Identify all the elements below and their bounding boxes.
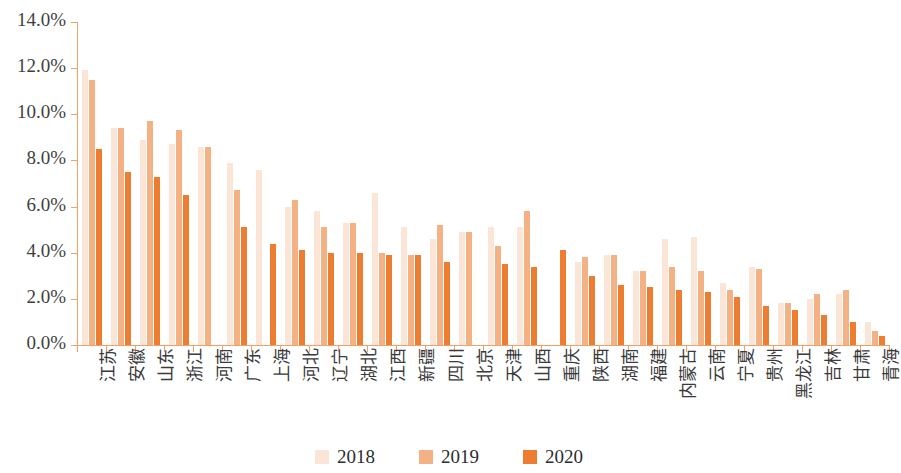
bar xyxy=(169,144,175,345)
bar xyxy=(82,70,88,345)
bar-group xyxy=(691,22,711,345)
x-axis-tick-label: 黑龙江 xyxy=(796,348,813,399)
bar xyxy=(241,227,247,345)
bar xyxy=(698,271,704,345)
bar xyxy=(749,267,755,345)
y-axis-tick-label: 12.0% xyxy=(17,55,66,77)
bar xyxy=(111,128,117,345)
bar xyxy=(154,177,160,345)
x-axis-tick-label: 广东 xyxy=(245,348,262,382)
x-axis-tick-label: 山西 xyxy=(535,348,552,382)
bar xyxy=(589,276,595,345)
bar-group xyxy=(662,22,682,345)
x-axis-tick-label: 新疆 xyxy=(419,348,436,382)
bar xyxy=(270,244,276,346)
bar xyxy=(372,193,378,345)
y-axis-tick-label: 14.0% xyxy=(17,9,66,31)
x-axis-tick-label: 四川 xyxy=(448,348,465,382)
bar-group xyxy=(256,22,276,345)
bars-layer xyxy=(77,22,889,345)
legend-item: 2018 xyxy=(315,446,375,468)
x-axis-tick-label: 宁夏 xyxy=(738,348,755,382)
bar xyxy=(604,255,610,345)
bar xyxy=(778,303,784,345)
bar xyxy=(756,269,762,345)
x-axis-tick-label: 辽宁 xyxy=(332,348,349,382)
legend-swatch xyxy=(523,450,537,464)
bar-group xyxy=(488,22,508,345)
bar xyxy=(415,255,421,345)
bar-group xyxy=(372,22,392,345)
bar-group xyxy=(285,22,305,345)
bar xyxy=(633,271,639,345)
bar-group xyxy=(778,22,798,345)
bar-group xyxy=(401,22,421,345)
bar-group xyxy=(575,22,595,345)
bar xyxy=(647,287,653,345)
x-axis-tick-label: 陕西 xyxy=(593,348,610,382)
x-axis-tick-label: 吉林 xyxy=(825,348,842,382)
bar xyxy=(531,267,537,345)
bar-group xyxy=(343,22,363,345)
bar xyxy=(669,267,675,345)
bar-group xyxy=(633,22,653,345)
legend-item: 2020 xyxy=(523,446,583,468)
x-axis-tick-label: 北京 xyxy=(477,348,494,382)
bar xyxy=(140,140,146,345)
bar xyxy=(734,297,740,345)
bar xyxy=(292,200,298,345)
bar xyxy=(582,257,588,345)
bar-group xyxy=(140,22,160,345)
bar xyxy=(328,253,334,345)
bar xyxy=(560,250,566,345)
bar xyxy=(466,232,472,345)
x-axis-tick-label: 上海 xyxy=(274,348,291,382)
chart-legend: 201820192020 xyxy=(0,446,898,468)
bar xyxy=(705,292,711,345)
bar xyxy=(299,250,305,345)
x-axis-tick-label: 湖北 xyxy=(361,348,378,382)
x-axis-tick-label: 贵州 xyxy=(767,348,784,382)
bar xyxy=(814,294,820,345)
bar xyxy=(350,223,356,345)
bar-group xyxy=(604,22,624,345)
bar xyxy=(575,262,581,345)
legend-label: 2018 xyxy=(337,446,375,468)
x-axis-tick-label: 内蒙古 xyxy=(680,348,697,399)
x-axis-tick-label: 江苏 xyxy=(100,348,117,382)
bar xyxy=(611,255,617,345)
bar xyxy=(408,255,414,345)
bar xyxy=(843,290,849,345)
bar xyxy=(321,227,327,345)
bar xyxy=(125,172,131,345)
x-axis-tick-label: 江西 xyxy=(390,348,407,382)
bar xyxy=(118,128,124,345)
legend-swatch xyxy=(315,450,329,464)
bar xyxy=(357,253,363,345)
bar xyxy=(401,227,407,345)
x-axis-tick-label: 河北 xyxy=(303,348,320,382)
bar-group xyxy=(749,22,769,345)
bar xyxy=(865,322,871,345)
bar xyxy=(879,336,885,345)
bar-group xyxy=(836,22,856,345)
bar xyxy=(343,223,349,345)
bar xyxy=(444,262,450,345)
bar-group xyxy=(314,22,334,345)
bar xyxy=(676,290,682,345)
bar-group xyxy=(865,22,885,345)
bar xyxy=(386,255,392,345)
bar xyxy=(205,147,211,345)
legend-swatch xyxy=(419,450,433,464)
bar-group xyxy=(720,22,740,345)
x-axis-tick-label: 天津 xyxy=(506,348,523,382)
bar xyxy=(285,207,291,345)
bar xyxy=(807,299,813,345)
bar xyxy=(430,239,436,345)
bar xyxy=(183,195,189,345)
x-axis-tick-label: 重庆 xyxy=(564,348,581,382)
bar xyxy=(488,227,494,345)
bar xyxy=(727,290,733,345)
bar xyxy=(691,237,697,345)
